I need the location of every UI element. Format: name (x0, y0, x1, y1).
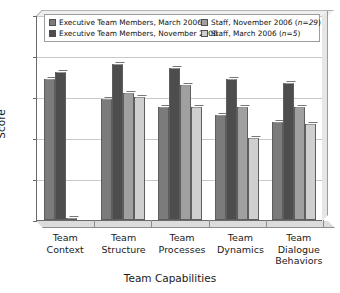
bar (215, 115, 226, 220)
bar (180, 85, 191, 220)
bar (123, 93, 134, 220)
bar (134, 97, 145, 220)
bar-group (265, 16, 322, 220)
y-axis-tick (33, 221, 37, 222)
chart-legend: Executive Team Members, March 2006Staff,… (44, 14, 320, 42)
bar (191, 107, 202, 220)
legend-item: Executive Team Members, March 2006 (49, 18, 201, 27)
y-axis-title: Score (0, 109, 7, 138)
bar-group (208, 16, 265, 220)
legend-item: Staff, March 2006 (n=5) (201, 29, 321, 38)
bar (44, 79, 55, 220)
bar (305, 124, 316, 220)
bar (55, 72, 66, 220)
legend-item: Executive Team Members, November 2006 (49, 29, 201, 38)
bar (112, 64, 123, 220)
x-axis-category-label: TeamProcesses (153, 232, 211, 272)
bar-group (37, 16, 94, 220)
legend-label: Staff, November 2006 (n=29) (211, 18, 321, 27)
bar (237, 107, 248, 220)
legend-item: Staff, November 2006 (n=29) (201, 18, 321, 27)
bar (283, 83, 294, 220)
x-axis-title: Team Capabilities (0, 272, 340, 284)
bar-groups (37, 16, 322, 220)
plot-depth-right (322, 10, 328, 221)
bar (169, 68, 180, 220)
legend-swatch (201, 19, 208, 26)
x-axis-tick (323, 220, 324, 227)
legend-label: Executive Team Members, November 2006 (59, 29, 218, 38)
bar (158, 107, 169, 220)
legend-label: Executive Team Members, March 2006 (59, 18, 202, 27)
x-axis-tick (266, 220, 267, 227)
bar (294, 107, 305, 220)
legend-swatch (201, 30, 208, 37)
legend-swatch (49, 30, 56, 37)
legend-label: Staff, March 2006 (n=5) (211, 29, 300, 38)
x-axis-category-label: TeamStructure (94, 232, 152, 272)
bar (226, 79, 237, 220)
x-axis-category-labels: TeamContextTeamStructureTeamProcessesTea… (36, 232, 328, 272)
bar (272, 122, 283, 220)
bar-chart-figure: Score 123456 TeamContextTeamStructureTea… (0, 0, 340, 293)
plot-depth-floor (36, 221, 335, 228)
bar-group (151, 16, 208, 220)
bar (101, 99, 112, 220)
bar-group (94, 16, 151, 220)
x-axis-category-label: TeamContext (36, 232, 94, 272)
bar (66, 218, 77, 220)
legend-swatch (49, 19, 56, 26)
x-axis-category-label: TeamDialogueBehaviors (270, 232, 328, 272)
x-axis-tick (209, 220, 210, 227)
x-axis-tick (151, 220, 152, 227)
x-axis-category-label: TeamDynamics (211, 232, 269, 272)
x-axis-tick (94, 220, 95, 227)
bar (248, 138, 259, 220)
plot-area (36, 16, 322, 221)
